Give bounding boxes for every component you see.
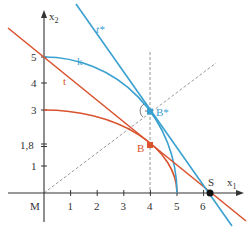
label-S: S — [208, 176, 214, 188]
label-t: t — [63, 75, 66, 87]
diagonal-dashed-line — [44, 63, 216, 193]
x-tick-label-1: 1 — [68, 200, 74, 212]
diagram-canvas: x2 x1 M 1 2 3 4 5 6 1 1,8 3 4 5 k t t* B… — [0, 0, 250, 227]
x-tick-label-4: 4 — [147, 200, 153, 212]
y-tick-label-4: 4 — [31, 77, 37, 89]
x-tick-label-3: 3 — [121, 200, 127, 212]
point-B-star — [147, 109, 153, 115]
y-tick-label-3: 3 — [31, 104, 37, 116]
point-S — [207, 190, 214, 197]
x-tick-label-5: 5 — [174, 200, 180, 212]
y-tick-label-1-8: 1,8 — [20, 139, 34, 151]
point-B — [147, 142, 153, 148]
origin-label: M — [30, 200, 40, 212]
right-angle-marker — [140, 104, 144, 117]
x-axis-label: x1 — [227, 176, 237, 191]
x-tick-label-6: 6 — [200, 200, 206, 212]
y-tick-label-1: 1 — [31, 160, 37, 172]
right-angle-dot — [145, 110, 147, 112]
label-B: B — [137, 142, 144, 154]
y-axis-arrow-icon — [41, 10, 47, 18]
y-tick-label-5: 5 — [31, 51, 37, 63]
label-t-star: t* — [96, 23, 105, 35]
y-axis-label: x2 — [49, 10, 59, 25]
label-B-star: B* — [156, 106, 169, 118]
x-tick-label-2: 2 — [94, 200, 100, 212]
label-k: k — [77, 55, 83, 67]
x-axis-arrow-icon — [236, 190, 244, 196]
